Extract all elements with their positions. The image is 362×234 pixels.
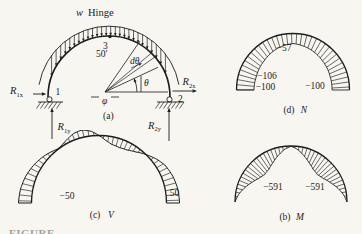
n-hatch (332, 82, 349, 85)
v-hatch (35, 164, 42, 168)
r2x-arrow-head (193, 89, 198, 92)
pin-support (167, 97, 172, 102)
n-crown-value: −57 (277, 43, 292, 53)
phi-label: φ (102, 96, 107, 106)
n-hatch (308, 37, 312, 48)
r1x-arrow-head (42, 92, 47, 95)
panel-b-label: (b) (279, 212, 290, 223)
v-hatch (21, 189, 33, 191)
v-hatch (151, 158, 154, 160)
reaction-r1x-label: R1x (9, 85, 24, 98)
shear-diagram: −50 50 (c) V (12, 130, 212, 225)
radius-label: 50′ (96, 49, 108, 59)
m-hatch (275, 148, 278, 156)
normal-force-diagram: −57 −106 −100 −100 (d) N (228, 28, 358, 120)
n-hatch (332, 87, 349, 88)
m-hatch (248, 167, 261, 178)
ground-hatch (41, 102, 46, 109)
theta-line (105, 67, 158, 92)
m-hatch (339, 188, 345, 190)
v-baseline-arc (32, 136, 167, 204)
m-hatch (313, 155, 322, 169)
v-hatch (28, 173, 37, 177)
theta-arc (135, 82, 136, 83)
shear-geometry (19, 130, 180, 203)
m-hatch (327, 173, 339, 180)
ground-hatch (160, 102, 165, 109)
ground-hatch (164, 102, 169, 109)
ground-hatch (168, 102, 173, 109)
ground-hatch (45, 102, 50, 109)
figure-caption: FIGURE (9, 227, 55, 234)
figure-page: w Hinge 3 50′ dθ θ φ R1x 1 R1y R2x 2 R2y… (0, 0, 362, 234)
v-hatch (25, 178, 35, 181)
v-hatch (22, 184, 33, 187)
n-hatch (267, 40, 273, 52)
v-hatch (154, 160, 159, 163)
load-envelope (39, 26, 179, 85)
m-hatch (238, 184, 246, 187)
moment-diagram: −591 −591 (b) M (228, 140, 360, 225)
theta-arc-head (134, 79, 137, 83)
n-outer-arc (237, 33, 350, 90)
v-hatch (112, 137, 114, 144)
m-hatch (333, 180, 343, 184)
v-hatch (120, 140, 123, 148)
n-hatch (251, 52, 263, 63)
moment-geometry (235, 146, 347, 202)
m-hatch (239, 181, 249, 185)
v-hatch (77, 132, 79, 139)
m-hatch (260, 156, 269, 170)
m-hatch (237, 188, 243, 190)
normal-geometry (237, 33, 350, 90)
n-right-base-value: −100 (305, 81, 325, 91)
m-symbol: M (295, 212, 305, 222)
n-hatch (239, 75, 256, 80)
v-hatch (138, 150, 140, 153)
n-hatch (255, 49, 265, 60)
m-hatch (305, 148, 307, 156)
n-hatch (320, 47, 329, 58)
n-hatch (315, 41, 322, 52)
n-hatch (237, 85, 254, 87)
ground-hatch (57, 102, 62, 109)
n-left-mid-value: −106 (257, 71, 277, 81)
ground-hatch (49, 102, 54, 109)
v-hatch (82, 130, 84, 137)
figure-shape: 1x (16, 91, 23, 98)
panel-c-label: (c) (90, 210, 101, 221)
n-hatch (330, 72, 346, 77)
v-hatch (19, 195, 31, 196)
load-symbol-label: w (76, 7, 83, 18)
node-1-label: 1 (56, 87, 61, 97)
ground-hatch (53, 102, 58, 109)
m-right-value: −591 (305, 182, 325, 192)
m-hatch (336, 184, 344, 187)
m-hatch (283, 147, 284, 151)
m-hatch (299, 147, 300, 151)
v-hatch (163, 178, 174, 182)
v-hatch (39, 160, 44, 164)
m-hatch (302, 147, 303, 153)
m-left-value: −591 (263, 182, 283, 192)
v-hatch (31, 169, 39, 173)
n-hatch (311, 39, 316, 50)
dtheta-label: dθ (130, 56, 140, 66)
v-hatch (124, 142, 127, 149)
n-hatch (296, 34, 297, 44)
v-right-value: 50 (170, 188, 180, 198)
node-2-label: 2 (178, 94, 183, 104)
m-hatch (321, 166, 334, 177)
v-hatch (164, 183, 175, 186)
m-hatch (263, 153, 270, 166)
n-symbol: N (300, 105, 308, 115)
m-hatch (279, 147, 280, 153)
hinge-label: Hinge (88, 7, 114, 18)
v-hatch (43, 157, 47, 160)
v-hatch (129, 144, 132, 150)
n-hatch (325, 54, 337, 64)
theta-label: θ (144, 78, 149, 88)
reaction-r2x-label: R2x (182, 76, 197, 89)
n-hatch (331, 77, 348, 81)
v-hatch (68, 138, 70, 142)
